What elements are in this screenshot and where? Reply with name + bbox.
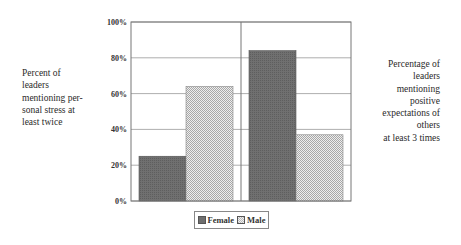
- y-tick-label: 40%: [111, 125, 127, 134]
- legend-male-label: Male: [247, 215, 265, 225]
- y-tick-label: 60%: [111, 90, 127, 99]
- bar-male-1: [186, 86, 233, 201]
- legend-female-label: Female: [208, 215, 234, 225]
- y-tick-label: 0%: [115, 197, 127, 206]
- legend-item-male: Male: [237, 215, 265, 225]
- bar-female-1: [139, 156, 186, 201]
- bar-female-2: [249, 51, 296, 201]
- female-swatch-icon: [198, 216, 206, 224]
- y-axis-ticks: 0%20%40%60%80%100%: [107, 18, 127, 206]
- bar-male-2: [296, 135, 343, 201]
- legend: Female Male: [194, 211, 269, 229]
- y-tick-label: 100%: [107, 18, 127, 27]
- legend-item-female: Female: [198, 215, 234, 225]
- male-swatch-icon: [237, 216, 245, 224]
- y-tick-label: 20%: [111, 161, 127, 170]
- y-tick-label: 80%: [111, 54, 127, 63]
- bar-chart: 0%20%40%60%80%100%: [0, 0, 461, 245]
